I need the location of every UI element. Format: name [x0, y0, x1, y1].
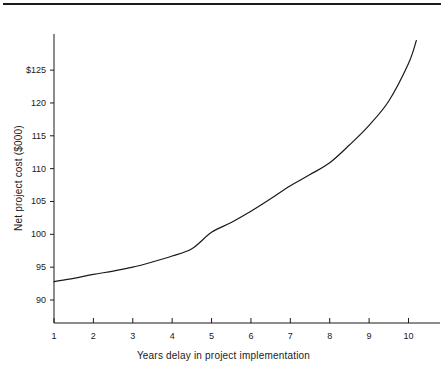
x-tick-label: 5 [209, 332, 214, 341]
x-tick-label: 3 [130, 332, 135, 341]
y-axis-label-wrapper: Net project cost ($000) [14, 0, 15, 375]
data-series-line-net-project-cost [54, 41, 416, 282]
x-tick-label: 9 [367, 332, 372, 341]
y-tick-label: 100 [0, 230, 46, 239]
y-ticks-group [50, 70, 54, 300]
x-tick-label: 10 [403, 332, 413, 341]
line-chart-svg [0, 0, 447, 375]
y-tick-label: 95 [0, 263, 46, 272]
axes-group [54, 34, 440, 323]
x-tick-label: 2 [91, 332, 96, 341]
y-tick-label: 90 [0, 296, 46, 305]
y-tick-label: $125 [0, 66, 46, 75]
y-tick-label: 120 [0, 98, 46, 107]
x-tick-label: 4 [170, 332, 175, 341]
x-tick-label: 8 [327, 332, 332, 341]
y-axis-label: Net project cost ($000) [13, 125, 24, 231]
x-tick-label: 1 [51, 332, 56, 341]
x-axis-label: Years delay in project implementation [0, 350, 447, 361]
chart-page: 9095100105110115120$125 12345678910 Net … [0, 0, 447, 375]
x-ticks-group [54, 318, 408, 323]
x-tick-label: 7 [288, 332, 293, 341]
x-tick-label: 6 [248, 332, 253, 341]
